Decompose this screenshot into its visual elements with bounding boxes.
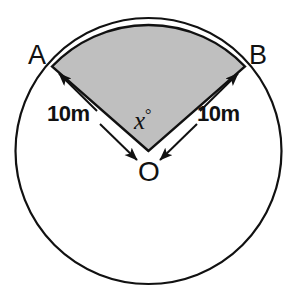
- label-angle: x°: [134, 108, 152, 133]
- label-radius-right: 10m: [197, 103, 240, 125]
- label-point-a: A: [28, 42, 46, 69]
- label-radius-left: 10m: [47, 103, 90, 125]
- label-point-b: B: [249, 42, 267, 69]
- degree-symbol-icon: °: [145, 106, 151, 123]
- label-center-o: O: [138, 158, 160, 186]
- label-angle-variable: x: [134, 107, 145, 134]
- geometry-figure: A B 10m 10m x° O: [0, 0, 299, 300]
